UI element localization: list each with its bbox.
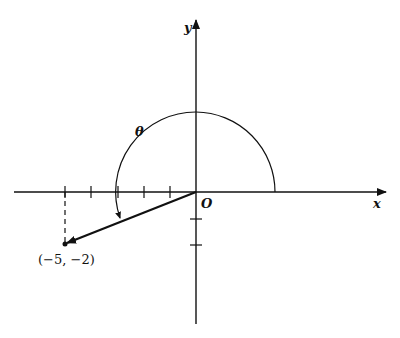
x-axis-label: x bbox=[372, 196, 381, 211]
origin-label: O bbox=[201, 196, 213, 211]
position-vector bbox=[67, 192, 196, 243]
y-axis-label: y bbox=[183, 20, 193, 35]
point-label: (−5, −2) bbox=[38, 252, 95, 267]
coordinate-diagram: y x O θ (−5, −2) bbox=[0, 0, 400, 338]
theta-label: θ bbox=[135, 124, 144, 139]
point-marker bbox=[63, 242, 68, 247]
